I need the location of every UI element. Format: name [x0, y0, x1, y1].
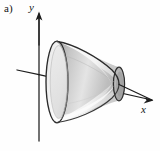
x-axis-negative-segment: [17, 70, 39, 75]
funnel-surface: [46, 41, 125, 123]
x-axis-label: x: [141, 104, 146, 115]
left-rim-thickness: [50, 46, 67, 119]
y-axis-label: y: [29, 2, 34, 13]
figure-panel: a) y x: [0, 0, 160, 151]
part-label: a): [4, 3, 13, 14]
surface-diagram: [0, 0, 160, 151]
